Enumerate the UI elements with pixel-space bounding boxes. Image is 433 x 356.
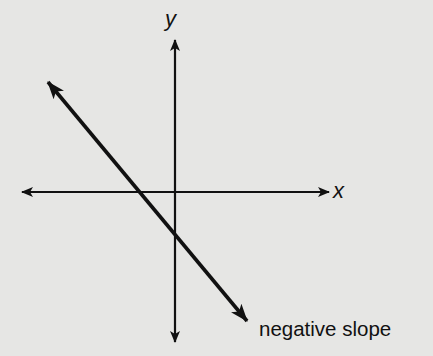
y-axis-label: y <box>165 8 176 30</box>
line-caption: negative slope <box>259 319 391 340</box>
x-axis-label: x <box>333 180 344 202</box>
negative-slope-line <box>48 82 247 321</box>
diagram-canvas: y x negative slope <box>0 0 433 356</box>
coordinate-plane <box>0 0 433 356</box>
